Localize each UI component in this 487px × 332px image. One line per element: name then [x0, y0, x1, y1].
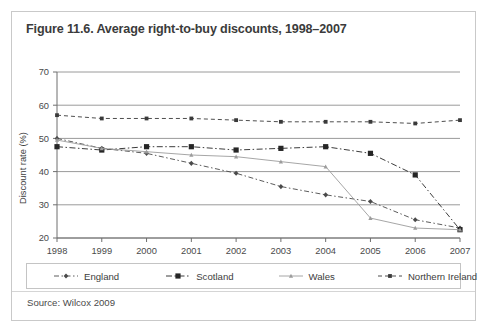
- data-point: [145, 117, 149, 121]
- legend-marker-icon: [377, 271, 403, 281]
- data-point: [323, 144, 328, 149]
- y-tick-label: 20: [39, 233, 49, 243]
- data-point: [278, 146, 283, 151]
- series-wales: [55, 138, 462, 232]
- series-scotland: [54, 144, 462, 232]
- legend-label: England: [84, 271, 119, 282]
- data-point: [323, 192, 328, 197]
- data-point: [234, 147, 239, 152]
- data-point: [458, 118, 462, 122]
- data-point: [413, 217, 418, 222]
- line-chart: 203040506070 199819992000200120022003200…: [12, 50, 475, 262]
- y-tick-label: 40: [39, 167, 49, 177]
- legend-entry[interactable]: Scotland: [165, 271, 233, 282]
- data-point: [55, 113, 59, 117]
- x-tick-label: 2006: [405, 246, 426, 256]
- y-axis-tick-labels: 203040506070: [39, 67, 49, 243]
- x-tick-label: 2002: [226, 246, 247, 256]
- chart-plot-area: 203040506070 199819992000200120022003200…: [12, 50, 475, 262]
- data-point: [278, 184, 283, 189]
- legend-label: Wales: [309, 271, 335, 282]
- data-point: [54, 144, 59, 149]
- x-tick-label: 2004: [315, 246, 336, 256]
- data-point: [189, 144, 194, 149]
- data-point: [369, 120, 373, 124]
- legend-label: Scotland: [196, 271, 233, 282]
- figure-card: Figure 11.6. Average right-to-buy discou…: [11, 11, 476, 321]
- series-line: [57, 138, 460, 228]
- x-tick-label: 2001: [181, 246, 202, 256]
- legend-marker-icon: [278, 271, 304, 281]
- x-tick-label: 1999: [91, 246, 112, 256]
- y-tick-label: 50: [39, 134, 49, 144]
- legend-row: EnglandScotlandWalesNorthern Ireland: [27, 264, 460, 288]
- y-tick-label: 70: [39, 67, 49, 77]
- data-point: [189, 161, 194, 166]
- data-point: [144, 144, 149, 149]
- data-point: [413, 122, 417, 126]
- figure-title: Figure 11.6. Average right-to-buy discou…: [26, 22, 347, 36]
- legend-label: Northern Ireland: [408, 271, 477, 282]
- data-point: [100, 117, 104, 121]
- series-line: [57, 140, 460, 230]
- x-tick-label: 2005: [360, 246, 381, 256]
- source-note: Source: Wilcox 2009: [27, 297, 115, 308]
- legend-marker-icon: [53, 271, 79, 281]
- data-point: [368, 151, 373, 156]
- series-england: [55, 136, 463, 231]
- data-point: [324, 120, 328, 124]
- data-point: [368, 199, 373, 204]
- series-line: [57, 115, 460, 123]
- data-series-layer: [54, 113, 462, 232]
- x-tick-label: 2003: [271, 246, 292, 256]
- y-tick-label: 30: [39, 200, 49, 210]
- data-point: [279, 120, 283, 124]
- chart-legend: EnglandScotlandWalesNorthern Ireland: [26, 263, 461, 289]
- y-axis-title: Discount rate (%): [18, 132, 28, 204]
- x-axis-tick-labels: 1998199920002001200220032004200520062007: [47, 238, 471, 256]
- x-tick-label: 2007: [450, 246, 471, 256]
- gridlines: [53, 72, 460, 238]
- legend-marker-icon: [165, 271, 191, 281]
- series-northern-ireland: [55, 113, 462, 125]
- x-tick-label: 2000: [136, 246, 157, 256]
- axes: [57, 72, 460, 238]
- legend-entry[interactable]: Northern Ireland: [377, 271, 477, 282]
- y-tick-label: 60: [39, 101, 49, 111]
- legend-entry[interactable]: Wales: [278, 271, 335, 282]
- data-point: [413, 172, 418, 177]
- legend-entry[interactable]: England: [53, 271, 119, 282]
- data-point: [234, 118, 238, 122]
- data-point: [189, 117, 193, 121]
- figure-divider: [12, 291, 475, 292]
- x-tick-label: 1998: [47, 246, 68, 256]
